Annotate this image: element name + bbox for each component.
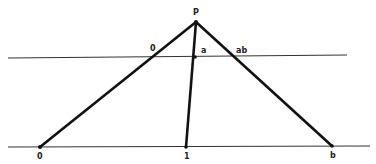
label-ab: ab (236, 46, 247, 55)
point-a (193, 55, 197, 59)
ray-p-to-zero (40, 22, 196, 147)
label-p: P (193, 8, 199, 17)
lower-line (8, 146, 370, 147)
label-a: a (201, 46, 206, 55)
projective-multiplication-diagram: P 0 a ab 0 1 b (0, 0, 376, 164)
ray-p-to-b (196, 22, 332, 146)
upper-line (8, 55, 347, 58)
label-zero-lower: 0 (37, 152, 43, 161)
ray-p-to-one (186, 22, 196, 147)
point-one-lower (184, 145, 188, 149)
label-b-lower: b (330, 151, 336, 160)
point-b-lower (330, 144, 334, 148)
point-zero-lower (38, 145, 42, 149)
label-zero-upper: 0 (150, 44, 156, 53)
label-one-lower: 1 (184, 152, 190, 161)
point-p (194, 20, 198, 24)
